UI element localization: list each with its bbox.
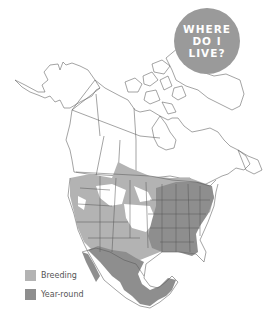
arctic-island — [144, 90, 160, 104]
legend-item-breeding: Breeding — [25, 269, 84, 281]
arctic-island — [172, 86, 186, 100]
arctic-island — [143, 72, 158, 86]
legend-item-year-round: Year-round — [25, 288, 84, 300]
province-border — [96, 136, 104, 176]
arctic-island — [160, 76, 172, 90]
where-do-i-live-badge: WHERE DO I LIVE? — [174, 8, 240, 74]
alaska-outline — [15, 62, 100, 108]
badge-line: WHERE — [183, 23, 231, 35]
badge-line: DO I — [192, 35, 221, 47]
hudson-bay-outline — [152, 116, 176, 150]
map-legend: Breeding Year-round — [25, 269, 84, 307]
breeding-swatch — [25, 270, 36, 281]
province-border — [96, 94, 100, 136]
province-border — [134, 108, 136, 140]
newfoundland-outline — [238, 150, 262, 174]
arctic-island — [125, 78, 142, 92]
province-border — [72, 110, 160, 138]
badge-line: LIVE? — [189, 47, 226, 59]
legend-label: Breeding — [41, 271, 77, 280]
legend-label: Year-round — [41, 290, 84, 299]
arctic-island — [152, 60, 170, 74]
year-round-swatch — [25, 289, 36, 300]
canada-outline — [66, 80, 250, 186]
arctic-island — [162, 102, 176, 114]
